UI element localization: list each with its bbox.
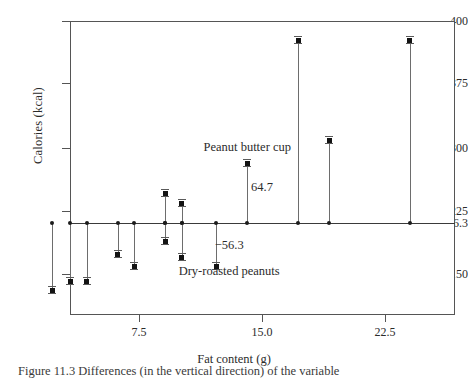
y-axis-title: Calories (kcal) bbox=[31, 46, 46, 206]
annotation-negative-residual: −56.3 bbox=[215, 239, 244, 252]
baseline-mean-line bbox=[70, 223, 455, 224]
data-point-marker bbox=[163, 191, 168, 196]
data-point-marker bbox=[115, 252, 120, 257]
data-point-marker bbox=[84, 279, 89, 284]
x-axis-tick-mark bbox=[262, 315, 263, 322]
data-point-marker bbox=[132, 264, 137, 269]
data-point-marker bbox=[68, 279, 73, 284]
x-axis-tick-mark bbox=[139, 315, 140, 322]
baseline-dot bbox=[85, 221, 89, 225]
data-stem bbox=[87, 223, 88, 282]
data-stem bbox=[329, 140, 330, 223]
data-point-marker bbox=[179, 255, 184, 260]
baseline-dot bbox=[180, 221, 184, 225]
data-point-marker bbox=[50, 288, 55, 293]
annotation-positive-residual: 64.7 bbox=[251, 181, 273, 194]
annotation-peanut-butter-cup: Peanut butter cup bbox=[203, 141, 290, 154]
data-point-marker bbox=[163, 239, 168, 244]
data-stem bbox=[134, 223, 135, 266]
baseline-dot bbox=[116, 221, 120, 225]
y-axis-tick-mark bbox=[62, 211, 70, 212]
data-stem bbox=[165, 193, 166, 223]
data-point-marker bbox=[407, 38, 412, 43]
y-axis-tick-mark bbox=[62, 21, 70, 22]
data-point-marker bbox=[296, 38, 301, 43]
x-axis-tick-mark bbox=[385, 315, 386, 322]
data-point-marker bbox=[327, 138, 332, 143]
y-axis-tick-mark bbox=[62, 148, 70, 149]
annotation-dry-roasted-peanuts: Dry-roasted peanuts bbox=[179, 265, 280, 278]
data-stem bbox=[70, 223, 71, 282]
data-stem bbox=[52, 223, 53, 291]
x-axis-tick-label: 22.5 bbox=[355, 326, 415, 338]
x-axis-tick-label: 15.0 bbox=[232, 326, 292, 338]
data-point-marker bbox=[245, 161, 250, 166]
y-axis-tick-mark bbox=[62, 274, 70, 275]
y-axis-tick-mark bbox=[62, 83, 70, 84]
data-stem bbox=[247, 164, 248, 223]
x-axis-tick-label: 7.5 bbox=[109, 326, 169, 338]
baseline-dot bbox=[408, 221, 412, 225]
data-stem bbox=[410, 41, 411, 223]
figure-caption: Figure 11.3 Differences (in the vertical… bbox=[18, 364, 458, 379]
data-point-marker bbox=[179, 201, 184, 206]
baseline-dot bbox=[50, 221, 54, 225]
data-stem bbox=[298, 41, 299, 223]
